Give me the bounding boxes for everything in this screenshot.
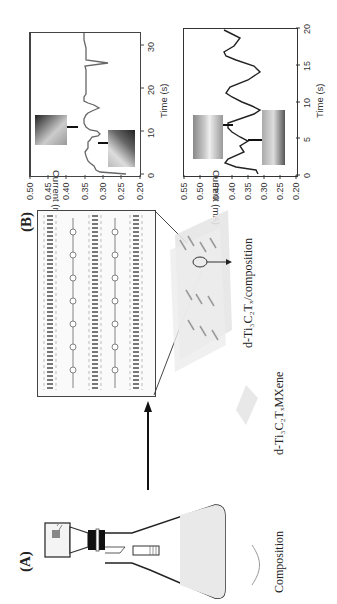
- filtration-flask: [0, 0, 337, 604]
- composition-caption: Composition: [272, 531, 287, 593]
- composite-caption: d-Ti₃C₂Tₓ/composition: [241, 238, 256, 348]
- mxene-caption: d-Ti₃C₂TₓMXene: [272, 372, 287, 455]
